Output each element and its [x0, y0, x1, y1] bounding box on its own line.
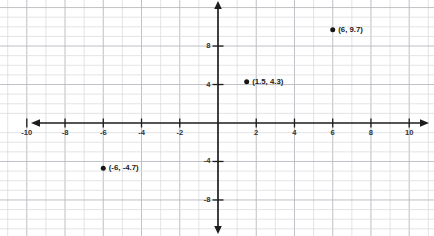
data-points-layer: (6, 9.7)(1.5, 4.3)(-6, -4.7) [101, 25, 364, 173]
data-point-label: (-6, -4.7) [109, 163, 139, 172]
x-tick-label: 2 [254, 128, 258, 137]
axis-layer [31, 1, 429, 234]
coordinate-plane-chart: -10-8-6-4-224681084-4-8 (6, 9.7)(1.5, 4.… [0, 0, 434, 236]
y-tick-label: -8 [204, 195, 211, 204]
x-tick-label: -6 [100, 128, 107, 137]
x-tick-label: 8 [369, 128, 373, 137]
x-tick-label: -4 [138, 128, 146, 137]
x-axis-arrow-left [31, 119, 40, 127]
x-axis-arrow-right [420, 119, 429, 127]
data-point-label: (6, 9.7) [338, 25, 363, 34]
y-axis-arrow-down [214, 226, 222, 234]
y-axis-arrow-up [214, 1, 222, 9]
data-point-marker [330, 27, 335, 32]
y-tick-label: -4 [204, 156, 212, 165]
y-tick-label: 8 [206, 41, 210, 50]
x-tick-label: 6 [331, 128, 335, 137]
x-tick-label: -8 [62, 128, 69, 137]
x-tick-label: -2 [176, 128, 183, 137]
data-point-marker [244, 79, 249, 84]
data-point: (6, 9.7) [330, 25, 363, 34]
y-tick-label: 4 [206, 80, 211, 89]
data-point-marker [101, 166, 106, 171]
coordinate-plane-svg: -10-8-6-4-224681084-4-8 (6, 9.7)(1.5, 4.… [0, 0, 434, 236]
x-tick-label: 10 [405, 128, 413, 137]
data-point-label: (1.5, 4.3) [252, 77, 284, 86]
x-tick-label: -10 [21, 128, 32, 137]
